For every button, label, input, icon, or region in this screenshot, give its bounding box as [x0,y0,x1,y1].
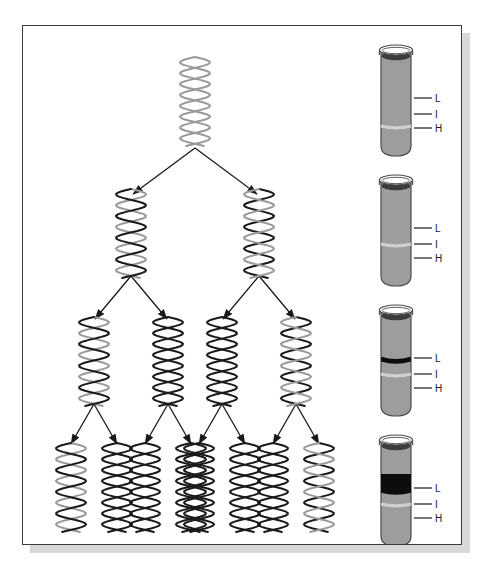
band-label-i: I [435,499,438,510]
band-label-h: H [435,123,442,134]
dna-molecule-g2-2 [202,314,242,409]
dna-molecule-g1-0 [111,186,151,281]
band-label-i: I [435,109,438,120]
dna-molecule-g2-3 [276,314,316,409]
centrifuge-tube-2: LIH [363,168,462,298]
figure-panel: LIH LIH LIH LIH [22,25,462,545]
dna-molecule-g2-1 [148,314,188,409]
dna-molecule-g2-0 [74,314,114,409]
band-label-l: L [435,93,441,104]
band-label-h: H [435,513,442,524]
band-label-l: L [435,483,441,494]
dna-molecule-g1-1 [239,186,279,281]
centrifuge-tube-3: LIH [363,298,462,428]
band-label-h: H [435,253,442,264]
centrifuge-tube-1: LIH [363,38,462,168]
band-label-l: L [435,353,441,364]
figure-root: LIH LIH LIH LIH [0,0,477,569]
band-label-h: H [435,383,442,394]
band-label-l: L [435,223,441,234]
dna-molecule-g3-4 [179,440,219,535]
replication-tree [23,26,363,544]
dna-molecule-g3-7 [299,440,339,535]
dna-molecule-g3-0 [51,440,91,535]
dna-molecule-g3-2 [125,440,165,535]
dna-molecule-g3-6 [253,440,293,535]
band-label-i: I [435,369,438,380]
centrifuge-tube-column: LIH LIH LIH LIH [363,26,462,544]
band-label-i: I [435,239,438,250]
dna-molecule-g0-0 [175,54,215,149]
centrifuge-tube-4: LIH [363,428,462,545]
